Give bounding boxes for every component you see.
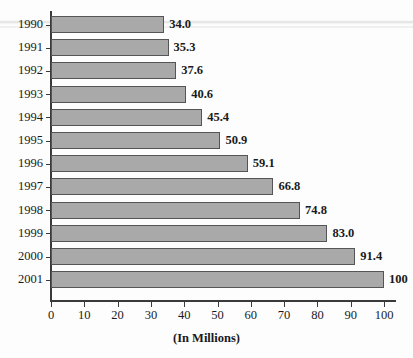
bar [51,132,220,149]
x-axis-tick [84,302,85,307]
bar [51,16,164,33]
category-label-2000: 2000 [3,248,43,265]
x-axis-tick [151,302,152,307]
x-axis-tick [218,302,219,307]
x-axis-tick [351,302,352,307]
bar-value-label: 100 [389,271,408,288]
bar [51,271,384,288]
category-label-1992: 1992 [3,62,43,79]
bar-value-label: 59.1 [253,155,275,172]
category-label-1994: 1994 [3,109,43,126]
bar [51,178,273,195]
category-tick [46,94,51,95]
category-tick [46,233,51,234]
category-tick [46,164,51,165]
bar [51,248,355,265]
bar-chart: 34.0199035.3199137.6199240.6199345.41994… [0,0,413,358]
bar-value-label: 40.6 [191,86,213,103]
x-axis-tick [384,302,385,307]
x-axis-tick [251,302,252,307]
category-label-2001: 2001 [3,271,43,288]
bar-value-label: 34.0 [169,16,191,33]
category-label-1999: 1999 [3,225,43,242]
bar [51,86,186,103]
x-axis-tick [317,302,318,307]
bar-value-label: 45.4 [207,109,229,126]
category-label-1995: 1995 [3,132,43,149]
category-tick [46,48,51,49]
x-axis-line [50,300,396,302]
bar-value-label: 50.9 [225,132,247,149]
category-tick [46,187,51,188]
bar-value-label: 74.8 [305,202,327,219]
bar [51,39,169,56]
category-label-1996: 1996 [3,155,43,172]
category-tick [46,257,51,258]
bar-value-label: 83.0 [332,225,354,242]
bar [51,155,248,172]
category-tick [46,141,51,142]
plot-area: 34.0199035.3199137.6199240.6199345.41994… [0,0,413,358]
bar-value-label: 91.4 [360,248,382,265]
x-axis-tick-label: 100 [364,308,404,323]
category-tick [46,117,51,118]
x-axis-title: (In Millions) [0,331,413,346]
bar [51,202,300,219]
category-label-1997: 1997 [3,178,43,195]
x-axis-tick [184,302,185,307]
x-axis-tick [118,302,119,307]
bar-value-label: 66.8 [278,178,300,195]
category-label-1993: 1993 [3,86,43,103]
x-axis-tick [284,302,285,307]
bar [51,109,202,126]
bar-value-label: 37.6 [181,62,203,79]
category-label-1998: 1998 [3,202,43,219]
category-tick [46,210,51,211]
category-tick [46,280,51,281]
bar [51,225,327,242]
category-tick [46,25,51,26]
x-axis-tick [51,302,52,307]
bar-value-label: 35.3 [174,39,196,56]
category-label-1991: 1991 [3,39,43,56]
category-tick [46,71,51,72]
bar [51,62,176,79]
category-label-1990: 1990 [3,16,43,33]
